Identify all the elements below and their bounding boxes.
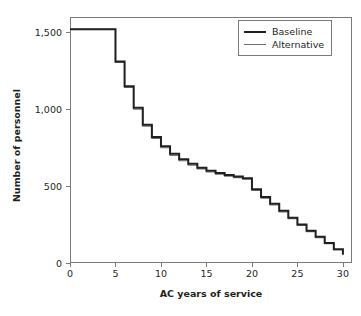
legend-label-baseline: Baseline <box>272 25 312 38</box>
chart-figure: Number of personnel AC years of service … <box>0 0 361 316</box>
legend-item-alternative: Alternative <box>244 38 324 51</box>
chart-legend: Baseline Alternative <box>238 20 332 56</box>
legend-swatch-alternative-icon <box>244 44 266 45</box>
series-line-baseline <box>70 29 343 254</box>
legend-label-alternative: Alternative <box>272 38 324 51</box>
legend-swatch-baseline-icon <box>244 31 266 33</box>
legend-item-baseline: Baseline <box>244 25 324 38</box>
series-line-alternative <box>70 29 343 255</box>
